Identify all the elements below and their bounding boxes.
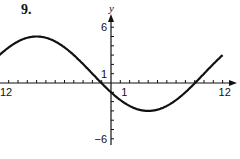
y-axis-arrow-icon [108, 14, 114, 22]
y-tick-label: 6 [101, 21, 107, 33]
x-tick-label: 12 [219, 86, 231, 98]
y-tick-label: −6 [94, 133, 107, 145]
x-tick-label: 12 [0, 86, 12, 98]
x-tick-label: 1 [121, 86, 127, 98]
y-axis-label: y [108, 2, 114, 14]
chart: y1211261−6 [0, 0, 240, 159]
y-tick-label: 1 [101, 68, 107, 80]
axes: y1211261−6 [0, 2, 237, 145]
